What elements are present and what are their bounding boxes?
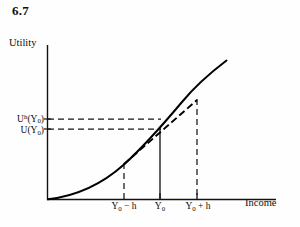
utility-curve-group bbox=[48, 61, 227, 200]
guide-lines-group bbox=[48, 99, 197, 199]
utility-income-figure: 6.7 Utility Income Uh(Y0) U(Y0) Y0 − h Y… bbox=[0, 0, 300, 227]
plot-canvas bbox=[0, 0, 300, 227]
utility-curve-path bbox=[48, 61, 227, 200]
axis-ticks-group bbox=[44, 119, 197, 200]
axes-group bbox=[47, 45, 276, 200]
